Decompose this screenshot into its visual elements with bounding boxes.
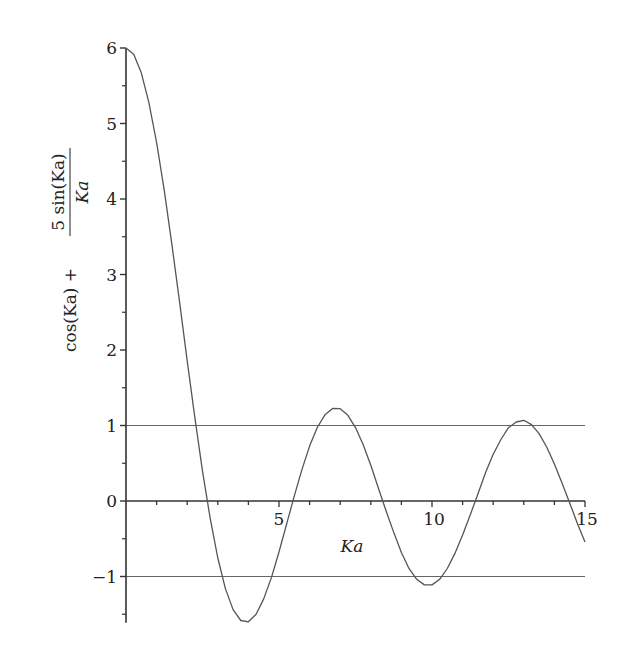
y-axis-title: cos(Ka) + 5 sin(Ka) Ka bbox=[48, 148, 92, 352]
x-tick-label: 5 bbox=[274, 509, 285, 529]
x-tick-label: 15 bbox=[576, 509, 598, 529]
chart: 6543210−1 51015 Ka cos(Ka) + 5 sin(Ka) K… bbox=[0, 0, 624, 660]
y-tick-label: −1 bbox=[92, 567, 117, 587]
y-axis-title-fraction-denominator: Ka bbox=[72, 181, 92, 205]
y-axis-ticks: 6543210−1 bbox=[92, 38, 126, 614]
x-tick-label: 10 bbox=[423, 509, 445, 529]
y-tick-label: 6 bbox=[106, 38, 117, 58]
y-tick-label: 2 bbox=[106, 340, 117, 360]
x-axis-title: Ka bbox=[340, 536, 364, 556]
y-tick-label: 1 bbox=[106, 416, 117, 436]
x-axis-ticks: 51015 bbox=[157, 501, 598, 529]
y-axis-title-left: cos(Ka) + bbox=[60, 268, 80, 352]
y-tick-label: 5 bbox=[106, 114, 117, 134]
y-axis-title-fraction-numerator: 5 sin(Ka) bbox=[48, 153, 68, 230]
y-tick-label: 4 bbox=[106, 189, 117, 209]
y-tick-label: 0 bbox=[106, 491, 117, 511]
y-tick-label: 3 bbox=[106, 265, 117, 285]
